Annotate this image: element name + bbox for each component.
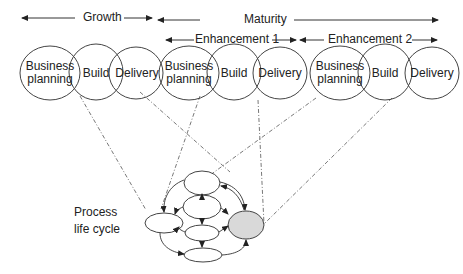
node-business-planning-3: Business planning — [314, 60, 366, 86]
process-node-highlight — [228, 211, 264, 239]
phase-label-growth: Growth — [83, 11, 122, 24]
process-node-mid — [185, 225, 219, 241]
process-node-upper — [183, 195, 221, 219]
node-business-planning-2: Business planning — [163, 60, 215, 86]
process-node-bottom — [184, 248, 222, 262]
process-node-left — [145, 213, 183, 233]
phase-label-enhancement-2: Enhancement 2 — [328, 33, 412, 46]
node-build-2: Build — [213, 67, 255, 80]
node-delivery-1: Delivery — [112, 67, 162, 80]
process-life-cycle-label: Process life cycle — [74, 204, 120, 238]
node-delivery-3: Delivery — [407, 67, 457, 80]
process-node-top — [184, 171, 220, 195]
node-build-1: Build — [75, 67, 117, 80]
dash-connectors — [80, 92, 392, 224]
phase-label-enhancement-1: Enhancement 1 — [195, 33, 279, 46]
node-business-planning-1: Business planning — [24, 60, 76, 86]
process-graph — [145, 171, 264, 262]
node-delivery-2: Delivery — [255, 67, 305, 80]
node-build-3: Build — [364, 67, 406, 80]
phase-label-maturity: Maturity — [244, 13, 287, 26]
